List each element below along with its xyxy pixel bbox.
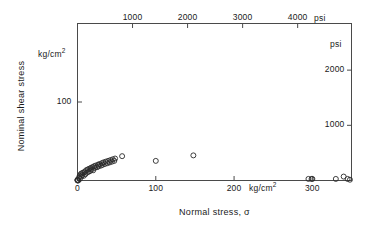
bottom-tick-label: 200 <box>227 183 242 193</box>
bottom-tick-label: 300 <box>305 183 320 193</box>
bottom-unit-exponent: 2 <box>273 181 277 188</box>
top-tick-label: 3000 <box>233 12 253 22</box>
axes-border <box>78 24 352 181</box>
bottom-axis-unit-label: kg/cm2 <box>249 183 277 193</box>
top-axis-ticks <box>133 24 298 29</box>
bottom-unit-text: kg/cm <box>249 183 273 193</box>
top-tick-label: 1000 <box>123 12 143 22</box>
data-point <box>153 158 158 163</box>
data-point <box>120 154 125 159</box>
y-axis-title: Nominal shear stress <box>16 41 26 171</box>
right-tick-label: 2000 <box>325 64 345 74</box>
bottom-tick-label: 0 <box>75 183 80 193</box>
x-axis-title: Normal stress, σ <box>77 207 352 217</box>
left-unit-exponent: 2 <box>62 47 66 54</box>
right-tick-label: 1000 <box>325 119 345 129</box>
plot-frame <box>78 24 352 181</box>
top-tick-label: 2000 <box>178 12 198 22</box>
bottom-axis-ticks <box>78 176 313 181</box>
scatter-plot-canvas <box>0 0 368 230</box>
right-axis-unit-label: psi <box>330 39 341 49</box>
bottom-tick-label: 100 <box>148 183 163 193</box>
right-axis-ticks <box>347 70 352 125</box>
left-tick-label: 100 <box>57 96 72 106</box>
left-unit-text: kg/cm <box>38 49 62 59</box>
left-axis-unit-label: kg/cm2 <box>38 49 66 59</box>
top-tick-label: 4000 <box>288 12 308 22</box>
chart-figure: Nominal shear stress Normal stress, σ kg… <box>0 0 368 230</box>
data-point-markers <box>75 153 352 183</box>
top-axis-unit-label: psi <box>314 13 325 23</box>
data-point <box>191 153 196 158</box>
